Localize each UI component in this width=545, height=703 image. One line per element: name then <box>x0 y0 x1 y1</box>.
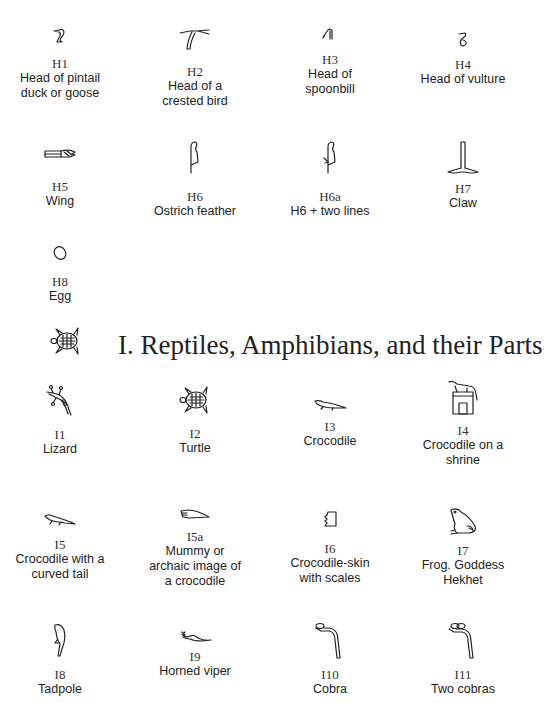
sign-i1: I1 Lizard <box>0 382 125 457</box>
vulture-head-icon <box>455 30 471 50</box>
sign-i7: I7 Frog. Goddess Hekhet <box>398 506 528 588</box>
sign-i6: I6 Crocodile-skin with scales <box>265 510 395 586</box>
cobra-icon <box>313 622 347 660</box>
sign-i2: I2 Turtle <box>130 385 260 456</box>
sign-i5: I5 Crocodile with a curved tail <box>0 512 125 582</box>
spoonbill-head-icon <box>320 25 340 45</box>
crocodile-skin-icon <box>322 510 338 528</box>
sign-h4: H4 Head of vulture <box>398 30 528 87</box>
wing-icon <box>44 148 76 160</box>
duck-head-icon <box>50 25 70 45</box>
sign-i11: I11 Two cobras <box>398 622 528 697</box>
ostrich-feather-icon <box>188 140 202 174</box>
lizard-icon <box>45 382 75 416</box>
turtle-icon <box>50 326 82 356</box>
sign-h5: H5 Wing <box>0 148 125 209</box>
sign-i10: I10 Cobra <box>265 622 395 697</box>
frog-icon <box>447 506 479 536</box>
sign-i4: I4 Crocodile on a shrine <box>398 378 528 468</box>
sign-h3: H3 Head of spoonbill <box>265 25 395 97</box>
sign-h1: H1 Head of pintail duck or goose <box>0 25 125 101</box>
mummy-crocodile-icon <box>179 508 211 520</box>
egg-icon <box>52 245 68 261</box>
feather-two-lines-icon <box>322 140 338 174</box>
sign-i5a: I5a Mummy or archaic image of a crocodil… <box>130 508 260 589</box>
crocodile-curved-tail-icon <box>43 512 77 526</box>
sign-i3: I3 Crocodile <box>265 398 395 449</box>
sign-h6: H6 Ostrich feather <box>130 140 260 219</box>
crocodile-shrine-icon <box>447 378 479 416</box>
tadpole-icon <box>51 622 69 658</box>
horned-viper-icon <box>178 630 212 642</box>
section-title: I. Reptiles, Amphibians, and their Parts <box>118 330 542 361</box>
crested-bird-head-icon <box>178 25 212 51</box>
sign-i8: I8 Tadpole <box>0 622 125 697</box>
sign-i9: I9 Horned viper <box>130 630 260 679</box>
turtle-icon <box>179 385 211 415</box>
sign-h2: H2 Head of a crested bird <box>130 25 260 109</box>
crocodile-icon <box>313 398 347 410</box>
sign-h6a: H6a H6 + two lines <box>265 140 395 219</box>
two-cobras-icon <box>446 622 480 660</box>
claw-icon <box>446 140 480 176</box>
sign-h8: H8 Egg <box>0 245 125 304</box>
sign-h7: H7 Claw <box>398 140 528 211</box>
